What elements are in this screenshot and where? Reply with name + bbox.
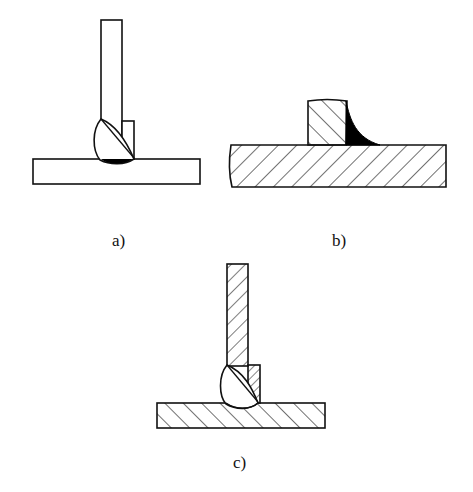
panel-b-base-plate — [230, 145, 446, 187]
panel-a-drawing — [33, 20, 200, 184]
panel-b-fillet-weld — [346, 101, 380, 145]
diagram-canvas: a) b) c) — [0, 0, 473, 492]
panel-c-drawing — [157, 264, 325, 428]
panel-c-vertical-plate — [227, 264, 248, 366]
panel-b-label: b) — [332, 232, 346, 249]
panel-b-drawing — [230, 100, 446, 188]
panel-c-label: c) — [233, 454, 246, 471]
panel-b-upright-block — [308, 100, 347, 146]
panel-a-label: a) — [112, 232, 125, 249]
weld-joint-figure — [0, 0, 473, 492]
